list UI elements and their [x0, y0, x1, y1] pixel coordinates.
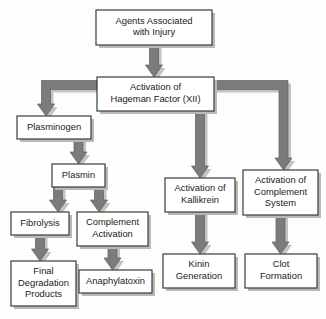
node-activation-of-kallikrein-label: Activation ofKallikrein — [174, 183, 225, 205]
node-kinin-generation-label-line: Kinin — [189, 259, 210, 270]
node-activation-of-kallikrein-label-line: Activation of — [174, 183, 225, 194]
node-complement-activation-label: ComplementActivation — [86, 217, 140, 239]
node-plasminogen-label: Plasminogen — [27, 121, 81, 132]
connector-plasmin-to-fibrolysis — [50, 187, 70, 215]
node-plasminogen: Plasminogen — [17, 116, 94, 142]
node-final-degradation-products-label-line: Degradation — [18, 277, 69, 288]
node-complement-activation-label-line: Complement — [86, 217, 140, 228]
connector-hageman-to-kallikrein — [192, 111, 212, 181]
node-kinin-generation-label-line: Generation — [176, 270, 222, 281]
node-clot-formation-label-line: Formation — [260, 270, 302, 281]
node-final-degradation-products: FinalDegradationProducts — [11, 261, 79, 309]
connector-plasmin-to-complement-activation — [91, 187, 111, 215]
node-complement-activation: ComplementActivation — [77, 212, 151, 249]
node-kinin-generation: KininGeneration — [163, 254, 238, 291]
node-plasmin-label: Plasmin — [62, 169, 95, 180]
node-clot-formation-label-line: Clot — [273, 259, 290, 270]
connector-plasminogen-to-plasmin — [70, 139, 90, 167]
node-activation-of-kallikrein-label-line: Kallikrein — [181, 194, 219, 205]
connector-fibrolysis-to-final-degradation-products — [32, 235, 52, 264]
node-agents-associated-with-injury: Agents Associatedwith Injury — [96, 10, 215, 48]
node-activation-of-complement-system-label-line: Activation of — [255, 175, 306, 186]
node-anaphylatoxin: Anaphylatoxin — [79, 270, 155, 296]
node-plasmin-label-line: Plasmin — [62, 169, 95, 180]
node-activation-of-hageman-factor-label-line: Activation of — [130, 82, 181, 93]
node-complement-activation-label-line: Activation — [92, 228, 133, 239]
node-activation-of-hageman-factor: Activation ofHageman Factor (XII) — [97, 77, 217, 114]
node-anaphylatoxin-label-line: Anaphylatoxin — [86, 275, 145, 286]
connector-hageman-to-complement-system-body — [214, 81, 292, 171]
node-activation-of-complement-system: Activation ofComplementSystem — [243, 170, 321, 218]
flowchart-diagram: Agents Associatedwith InjuryActivation o… — [0, 0, 326, 319]
node-agents-associated-with-injury-label-line: Agents Associated — [115, 15, 192, 26]
node-anaphylatoxin-label: Anaphylatoxin — [86, 275, 145, 286]
connector-injury-to-hageman — [146, 45, 166, 80]
node-final-degradation-products-label-line: Final — [33, 266, 53, 277]
node-activation-of-hageman-factor-label-line: Hageman Factor (XII) — [110, 93, 200, 104]
connector-complement-activation-to-anaphylatoxin — [104, 246, 124, 273]
node-fibrolysis: Fibrolysis — [11, 212, 72, 238]
connector-hageman-to-plasminogen-body — [38, 81, 98, 117]
connector-hageman-to-complement-system — [214, 81, 295, 174]
connector-complement-system-to-clot-formation — [272, 215, 292, 257]
node-fibrolysis-label-line: Fibrolysis — [20, 217, 60, 228]
node-plasminogen-label-line: Plasminogen — [27, 121, 81, 132]
node-plasmin: Plasmin — [52, 164, 108, 190]
node-agents-associated-with-injury-label-line: with Injury — [132, 27, 176, 38]
node-activation-of-complement-system-label-line: System — [265, 197, 296, 208]
nodes-layer: Agents Associatedwith InjuryActivation o… — [11, 10, 321, 309]
flowchart-canvas: Agents Associatedwith InjuryActivation o… — [0, 0, 326, 319]
node-final-degradation-products-label-line: Products — [25, 288, 62, 299]
node-fibrolysis-label: Fibrolysis — [20, 217, 60, 228]
node-activation-of-kallikrein: Activation ofKallikrein — [165, 178, 238, 215]
connector-kallikrein-to-kinin-generation — [192, 212, 212, 257]
node-clot-formation: ClotFormation — [245, 254, 320, 291]
node-activation-of-complement-system-label-line: Complement — [254, 186, 308, 197]
connector-hageman-to-plasminogen — [38, 81, 101, 120]
